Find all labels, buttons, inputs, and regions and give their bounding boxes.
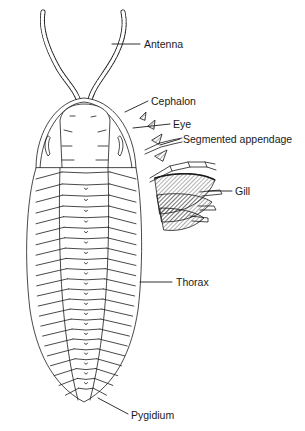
label-pygidium: Pygidium — [131, 410, 174, 421]
antenna-right — [89, 12, 124, 106]
label-cephalon: Cephalon — [151, 96, 196, 107]
body — [27, 98, 142, 402]
thorax-outline — [27, 168, 142, 402]
label-antenna: Antenna — [144, 39, 183, 50]
trilobite-illustration — [0, 0, 305, 431]
trilobite-diagram: Antenna Cephalon Eye Segmented appendage… — [0, 0, 305, 431]
label-eye: Eye — [173, 119, 191, 130]
glabella — [60, 104, 110, 168]
label-segmented-appendage: Segmented appendage — [183, 134, 292, 145]
antenna-left — [42, 12, 80, 106]
label-gill: Gill — [235, 186, 250, 197]
label-thorax: Thorax — [176, 277, 209, 288]
leader-cephalon — [125, 101, 148, 112]
leader-pygidium — [98, 398, 128, 414]
